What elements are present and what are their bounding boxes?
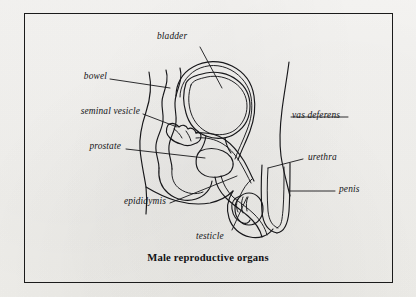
label-epididymis: epididymis — [78, 197, 166, 206]
bladder-outline-inner — [189, 76, 247, 134]
label-bowel: bowel — [55, 72, 107, 81]
label-testicle: testicle — [196, 232, 224, 241]
back-contour-line — [140, 72, 151, 214]
label-prostate: prostate — [55, 142, 121, 151]
seminal-vesicle-detail-2 — [186, 131, 191, 141]
urethra-duct — [215, 177, 262, 237]
label-seminal-vesicle: seminal vesicle — [34, 107, 140, 116]
label-urethra: urethra — [308, 153, 337, 162]
rectum-loop-inner — [172, 169, 203, 194]
leader-urethra — [268, 159, 303, 168]
penis-shaft-inner-left — [267, 168, 278, 228]
leader-bowel — [110, 79, 170, 88]
label-bladder: bladder — [157, 32, 187, 41]
prostate-outline — [196, 149, 233, 178]
anatomy-figure: bladder bowel seminal vesicle prostate e… — [0, 0, 416, 297]
label-penis: penis — [339, 185, 360, 194]
label-vas-deferens: vas deferens — [292, 111, 340, 120]
leader-bladder — [200, 47, 222, 88]
figure-caption: Male reproductive organs — [0, 252, 416, 263]
leader-prostate — [126, 149, 205, 158]
penis-shaft-inner-right — [277, 167, 284, 228]
rectum-loop — [159, 168, 212, 200]
bladder-outline-outer — [184, 72, 250, 138]
penis-shaft-left — [261, 165, 277, 233]
leader-seminal-vesicle — [143, 114, 177, 127]
front-body-contour — [280, 62, 290, 196]
seminal-vesicle-detail-1 — [174, 129, 182, 138]
